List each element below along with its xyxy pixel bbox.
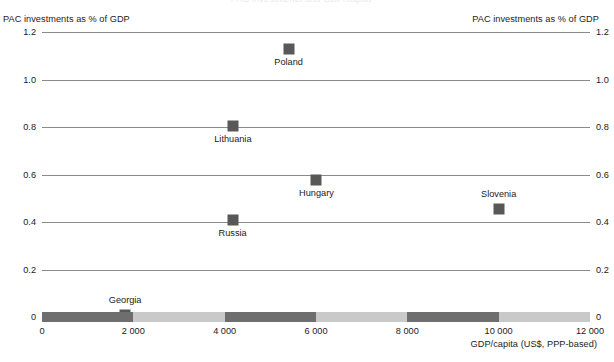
y-axis-tick-left: 0.8 xyxy=(2,123,36,132)
y-axis-tick-left: 1.0 xyxy=(2,76,36,85)
y-axis-tick-left: 0.2 xyxy=(2,266,36,275)
data-point-label: Hungary xyxy=(299,189,334,198)
x-axis-tick: 4 000 xyxy=(213,327,236,336)
x-axis-bar-segment xyxy=(225,312,316,322)
x-axis-title: GDP/capita (US$, PPP-based) xyxy=(471,339,597,349)
data-point-marker[interactable] xyxy=(493,203,504,214)
y-axis-tick-right: 1.2 xyxy=(596,28,614,37)
data-point-label: Georgia xyxy=(109,296,142,305)
clipped-chart-title: PAC investments and GDP/capita xyxy=(0,0,602,6)
x-axis-tick: 12 000 xyxy=(576,327,604,336)
gridline xyxy=(42,127,590,128)
x-axis-tick: 6 000 xyxy=(305,327,328,336)
y-axis-tick-left: 0.6 xyxy=(2,171,36,180)
y-axis-tick-right: 0.6 xyxy=(596,171,614,180)
y-axis-title-right: PAC investments as % of GDP xyxy=(472,14,599,24)
y-axis-tick-right: 1.0 xyxy=(596,76,614,85)
y-axis-tick-right: 0.4 xyxy=(596,218,614,227)
x-axis-bar-segment xyxy=(407,312,498,322)
y-axis-tick-right: 0 xyxy=(596,313,614,322)
gridline xyxy=(42,222,590,223)
data-point-label: Lithuania xyxy=(214,135,251,144)
gridline xyxy=(42,32,590,33)
data-point-label: Slovenia xyxy=(481,190,516,199)
gridline xyxy=(42,80,590,81)
x-axis-bar-segment xyxy=(316,312,407,322)
y-axis-tick-left: 0 xyxy=(2,313,36,322)
x-axis-bar-segment xyxy=(42,312,133,322)
data-point-label: Russia xyxy=(219,229,247,238)
y-axis-tick-left: 0.4 xyxy=(2,218,36,227)
plot-area: PolandLithuaniaHungarySloveniaRussiaGeor… xyxy=(42,32,590,317)
y-axis-title-left: PAC investments as % of GDP xyxy=(3,14,130,24)
gridline xyxy=(42,270,590,271)
x-axis-bar-segment xyxy=(133,312,224,322)
x-axis-bar-segment xyxy=(499,312,590,322)
x-axis-tick: 0 xyxy=(39,327,44,336)
y-axis-tick-left: 1.2 xyxy=(2,28,36,37)
x-axis-tick: 10 000 xyxy=(485,327,513,336)
data-point-marker[interactable] xyxy=(311,175,322,186)
data-point-marker[interactable] xyxy=(227,214,238,225)
x-axis-tick: 8 000 xyxy=(396,327,419,336)
y-axis-tick-right: 0.8 xyxy=(596,123,614,132)
x-axis-tick: 2 000 xyxy=(122,327,145,336)
data-point-marker[interactable] xyxy=(283,43,294,54)
data-point-label: Poland xyxy=(274,58,303,67)
data-point-marker[interactable] xyxy=(227,120,238,131)
x-axis-bar xyxy=(42,312,590,322)
y-axis-tick-right: 0.2 xyxy=(596,266,614,275)
